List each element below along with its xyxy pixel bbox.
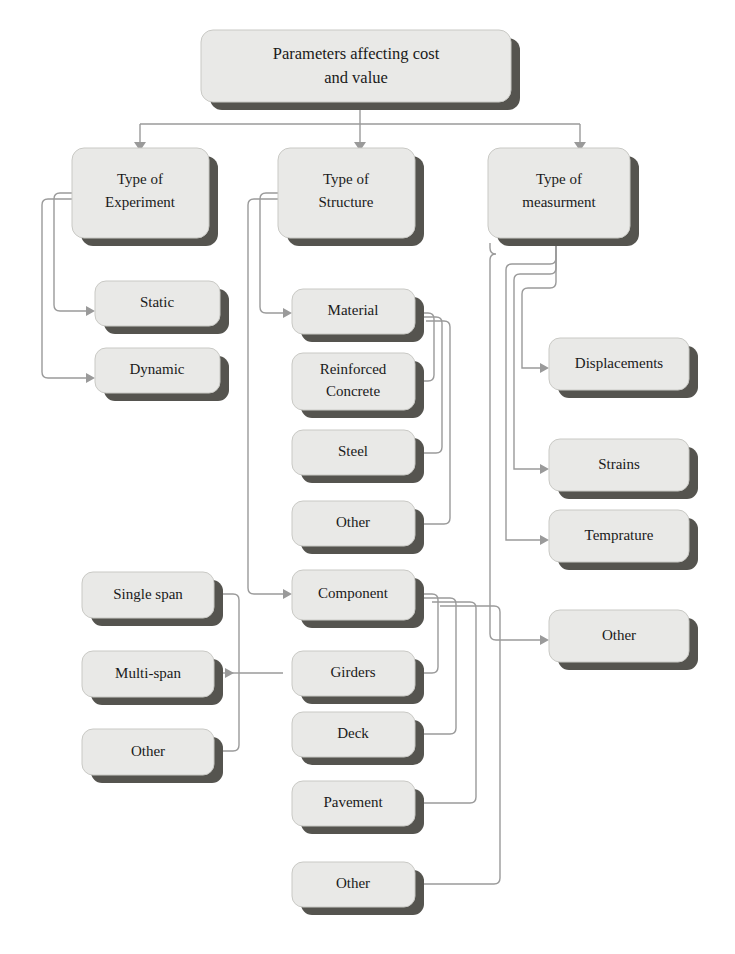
node-single-span[interactable]: Single span [82,572,223,626]
node-type-of-measurment-label-line1: Type of [536,171,582,187]
node-girders-label: Girders [331,664,376,680]
arrowhead-experiment-to-static [86,306,95,316]
node-root-box [201,30,511,102]
node-type-of-experiment[interactable]: Type of Experiment [72,148,218,246]
node-pavement-label: Pavement [323,794,383,810]
node-type-of-measurment-box [488,148,630,238]
connector-measurment-to-measurment-other [490,243,540,640]
node-type-of-structure-box [278,148,415,238]
node-component[interactable]: Component [292,570,424,628]
node-temprature[interactable]: Temprature [549,510,698,570]
node-displacements-label: Displacements [575,355,663,371]
node-static[interactable]: Static [95,281,229,334]
arrowhead-structure-to-component [283,589,292,599]
node-span-other[interactable]: Other [82,729,223,783]
flowchart-diagram: Parameters affecting cost and value Type… [0,0,735,954]
node-type-of-experiment-label-line1: Type of [117,171,163,187]
node-reinforced-concrete-label-line1: Reinforced [320,361,387,377]
arrowhead-measurment-to-temprature [540,535,549,545]
node-temprature-label: Temprature [585,527,654,543]
arrowhead-measurment-to-strains [540,464,549,474]
arrowhead-span-group-to-girders [225,668,234,678]
arrowhead-experiment-to-dynamic [86,373,95,383]
node-material-other[interactable]: Other [292,501,424,554]
node-dynamic[interactable]: Dynamic [95,348,229,401]
node-component-other[interactable]: Other [292,862,424,915]
node-reinforced-concrete[interactable]: Reinforced Concrete [292,353,424,418]
node-girders[interactable]: Girders [292,651,424,704]
node-deck-label: Deck [337,725,369,741]
node-type-of-measurment-label-line2: measurment [522,194,596,210]
node-strains[interactable]: Strains [549,439,698,499]
arrowhead-structure-to-material [283,308,292,318]
node-steel-label: Steel [338,443,368,459]
node-steel[interactable]: Steel [292,430,424,483]
arrowhead-measurment-to-measurment-other [540,635,549,645]
node-reinforced-concrete-label-line2: Concrete [326,383,380,399]
node-type-of-structure[interactable]: Type of Structure [278,148,424,246]
node-component-other-label: Other [336,875,370,891]
node-root-label-line1: Parameters affecting cost [273,44,440,63]
node-displacements[interactable]: Displacements [549,338,698,398]
connector-material-to-steel [421,317,442,453]
node-dynamic-label: Dynamic [130,361,185,377]
node-type-of-experiment-box [72,148,209,238]
node-material[interactable]: Material [292,289,424,342]
node-root-label-line2: and value [324,68,388,87]
node-type-of-structure-label-line2: Structure [319,194,374,210]
node-type-of-structure-label-line1: Type of [323,171,369,187]
node-root[interactable]: Parameters affecting cost and value [201,30,520,110]
node-type-of-measurment[interactable]: Type of measurment [488,148,639,246]
node-measurment-other-label: Other [602,627,636,643]
node-pavement[interactable]: Pavement [292,781,424,834]
node-measurment-other[interactable]: Other [549,610,698,670]
arrowhead-measurment-to-displacements [540,363,549,373]
node-component-label: Component [318,585,389,601]
connector-structure-to-component [248,199,283,594]
connector-component-to-component-other [424,606,500,884]
connector-component-to-pavement [424,602,476,803]
node-type-of-experiment-label-line2: Experiment [105,194,176,210]
node-single-span-label: Single span [113,586,183,602]
node-static-label: Static [140,294,175,310]
node-material-label: Material [328,302,379,318]
node-multi-span-label: Multi-span [115,665,181,681]
flowchart-canvas: Parameters affecting cost and value Type… [0,0,735,954]
node-deck[interactable]: Deck [292,712,424,765]
node-span-other-label: Other [131,743,165,759]
connector-material-to-material-other [424,321,450,524]
node-strains-label: Strains [598,456,640,472]
node-multi-span[interactable]: Multi-span [82,651,223,705]
connector-component-to-deck [424,598,456,734]
node-material-other-label: Other [336,514,370,530]
